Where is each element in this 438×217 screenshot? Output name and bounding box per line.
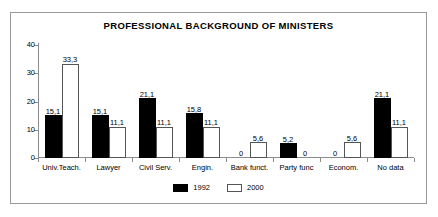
bar-2000[interactable]: 5,6 — [344, 142, 361, 158]
bar-pair: 15,133,3 — [45, 45, 79, 158]
y-axis-tick-label: 30 — [27, 68, 35, 77]
bar-pair: 21,111,1 — [374, 45, 408, 158]
bar-value-label: 5,2 — [283, 136, 293, 144]
bar-pair: 05,6 — [233, 45, 267, 158]
bar-value-label: 21,1 — [140, 91, 155, 99]
x-axis-tick-mark — [273, 158, 274, 162]
bar-slot: 0 — [327, 45, 344, 158]
bar-slot: 5,6 — [344, 45, 361, 158]
x-axis-category-label: Bank funct. — [231, 163, 269, 172]
bar-2000[interactable]: 5,6 — [250, 142, 267, 158]
bar-slot: 11,1 — [156, 45, 173, 158]
bar-slot: 5,2 — [280, 45, 297, 158]
x-axis-tick-mark — [179, 158, 180, 162]
bar-value-label: 11,1 — [204, 119, 218, 127]
bar-value-label: 15,8 — [187, 106, 202, 114]
bar-slot: 33,3 — [62, 45, 79, 158]
x-axis-tick-mark — [320, 158, 321, 162]
bar-slot: 5,6 — [250, 45, 267, 158]
bar-pair: 05,6 — [327, 45, 361, 158]
y-axis-tick-label: 20 — [27, 97, 35, 106]
bar-pair: 5,20 — [280, 45, 314, 158]
legend-label: 2000 — [247, 183, 264, 192]
x-axis-category-label: Econom. — [329, 163, 359, 172]
bar-pair: 15,111,1 — [92, 45, 126, 158]
bar-value-label: 11,1 — [157, 119, 171, 127]
chart-title: PROFESSIONAL BACKGROUND OF MINISTERS — [11, 20, 426, 31]
bar-1992[interactable]: 21,1 — [374, 98, 391, 158]
bar-slot: 11,1 — [391, 45, 408, 158]
bar-slot: 21,1 — [139, 45, 156, 158]
bar-value-label: 0 — [239, 150, 243, 158]
x-axis-tick-mark — [226, 158, 227, 162]
bar-slot: 11,1 — [203, 45, 220, 158]
legend-label: 1992 — [193, 183, 210, 192]
bar-slot: 21,1 — [374, 45, 391, 158]
bar-2000[interactable]: 33,3 — [62, 64, 79, 158]
bar-group: 15,811,1Engin. — [179, 45, 226, 158]
x-axis-category-label: Univ.Teach. — [42, 163, 81, 172]
bar-value-label: 11,1 — [392, 119, 406, 127]
bar-slot: 15,1 — [45, 45, 62, 158]
bar-2000[interactable]: 11,1 — [109, 127, 126, 158]
x-axis-tick-mark — [85, 158, 86, 162]
x-axis-category-label: Lawyer — [96, 163, 120, 172]
y-axis-tick-label: 40 — [27, 40, 35, 49]
chart-container: PROFESSIONAL BACKGROUND OF MINISTERS 010… — [10, 12, 427, 204]
bar-group: 21,111,1No data — [367, 45, 414, 158]
x-axis-tick-mark — [367, 158, 368, 162]
x-axis-category-label: Party func — [280, 163, 314, 172]
bar-value-label: 5,6 — [253, 135, 263, 143]
x-axis-category-label: Civil Serv. — [139, 163, 172, 172]
bar-value-label: 0 — [333, 150, 337, 158]
y-axis-tick-label: 0 — [31, 153, 35, 162]
bar-value-label: 21,1 — [375, 91, 390, 99]
bar-pair: 15,811,1 — [186, 45, 220, 158]
x-axis-category-label: Engin. — [192, 163, 213, 172]
bar-1992[interactable]: 15,1 — [45, 115, 62, 158]
legend-swatch-1992 — [173, 184, 188, 192]
bar-value-label: 11,1 — [110, 119, 124, 127]
bar-pair: 21,111,1 — [139, 45, 173, 158]
bar-2000[interactable]: 11,1 — [391, 127, 408, 158]
bar-group: 15,133,3Univ.Teach. — [38, 45, 85, 158]
bar-group: 5,20Party func — [273, 45, 320, 158]
bar-1992[interactable]: 15,1 — [92, 115, 109, 158]
legend-item[interactable]: 1992 — [173, 183, 210, 192]
x-axis-tick-mark — [414, 158, 415, 162]
legend-item[interactable]: 2000 — [227, 183, 264, 192]
bar-value-label: 15,1 — [93, 108, 108, 116]
x-axis-tick-mark — [132, 158, 133, 162]
legend-swatch-2000 — [227, 184, 242, 192]
bar-slot: 0 — [297, 45, 314, 158]
chart-legend: 19922000 — [11, 183, 426, 192]
bar-2000[interactable]: 11,1 — [203, 127, 220, 158]
plot-area: 010203040 15,133,3Univ.Teach.15,111,1Law… — [38, 45, 414, 158]
bar-value-label: 33,3 — [63, 56, 78, 64]
bar-value-label: 0 — [303, 150, 307, 158]
bar-slot: 0 — [233, 45, 250, 158]
bar-1992[interactable]: 15,8 — [186, 113, 203, 158]
bar-group: 05,6Bank funct. — [226, 45, 273, 158]
x-axis-category-label: No data — [377, 163, 403, 172]
bar-group: 15,111,1Lawyer — [85, 45, 132, 158]
bar-1992[interactable]: 21,1 — [139, 98, 156, 158]
y-axis-tick-label: 10 — [27, 125, 35, 134]
bar-1992[interactable]: 5,2 — [280, 143, 297, 158]
x-axis-tick-mark — [38, 158, 39, 162]
bar-slot: 15,8 — [186, 45, 203, 158]
bar-group: 21,111,1Civil Serv. — [132, 45, 179, 158]
bar-slot: 15,1 — [92, 45, 109, 158]
bar-value-label: 15,1 — [46, 108, 61, 116]
bar-slot: 11,1 — [109, 45, 126, 158]
bar-value-label: 5,6 — [347, 135, 357, 143]
bar-2000[interactable]: 11,1 — [156, 127, 173, 158]
bar-group: 05,6Econom. — [320, 45, 367, 158]
